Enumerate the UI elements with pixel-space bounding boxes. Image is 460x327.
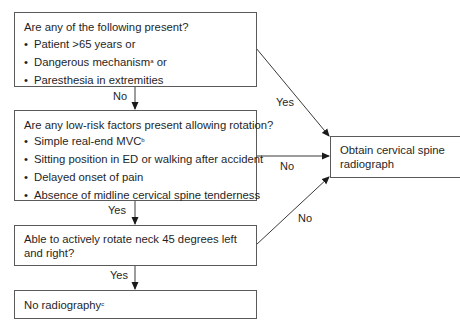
bullet-icon: • [24, 168, 34, 186]
bullet-icon: • [24, 35, 34, 53]
rotation-question-line2: and right? [24, 246, 74, 260]
high-risk-list: •Patient >65 years or •Dangerous mechani… [24, 35, 167, 89]
no-radiography-text: No radiography [24, 299, 101, 311]
obtain-text-line1: Obtain cervical spine [340, 143, 445, 157]
list-item: •Delayed onset of pain [24, 168, 263, 186]
low-risk-question: Are any low-risk factors present allowin… [24, 118, 273, 132]
footnote-marker: b [141, 137, 144, 143]
footnote-marker: a [150, 58, 153, 64]
bullet-icon: • [24, 150, 34, 168]
arrow-q3-no [256, 177, 329, 245]
edge-label-q1-no: No [113, 90, 127, 102]
bullet-icon: • [24, 186, 34, 204]
low-risk-list: •Simple real-end MVCb •Sitting position … [24, 132, 263, 204]
list-item: •Sitting position in ED or walking after… [24, 150, 263, 168]
bullet-icon: • [24, 132, 34, 150]
bullet-icon: • [24, 53, 34, 71]
decision-box-rotation: Able to actively rotate neck 45 degrees … [14, 225, 257, 266]
list-item: •Patient >65 years or [24, 35, 167, 53]
list-item: •Absence of midline cervical spine tende… [24, 186, 263, 204]
list-item: •Paresthesia in extremities [24, 71, 167, 89]
edge-label-q1-yes: Yes [276, 96, 294, 108]
edge-label-q2-no: No [280, 160, 294, 172]
edge-label-q2-yes: Yes [108, 204, 126, 216]
list-item: •Dangerous mechanisma or [24, 53, 167, 71]
obtain-text-line2: radiograph [340, 157, 394, 171]
outcome-box-obtain-radiograph: Obtain cervical spine radiograph [330, 136, 460, 178]
edge-label-q3-yes: Yes [110, 269, 128, 281]
footnote-marker: c [101, 301, 104, 307]
decision-box-low-risk: Are any low-risk factors present allowin… [14, 110, 257, 201]
decision-box-high-risk: Are any of the following present? •Patie… [14, 12, 257, 87]
bullet-icon: • [24, 71, 34, 89]
outcome-box-no-radiography: No radiographyc [14, 290, 257, 319]
high-risk-question: Are any of the following present? [24, 20, 189, 34]
edge-label-q3-no: No [298, 212, 312, 224]
rotation-question-line1: Able to actively rotate neck 45 degrees … [24, 232, 237, 246]
list-item: •Simple real-end MVCb [24, 132, 263, 150]
